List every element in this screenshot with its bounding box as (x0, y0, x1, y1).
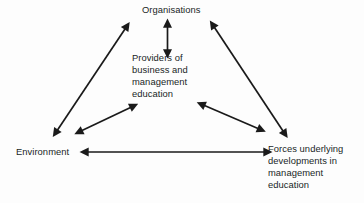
node-forces: Forces underlying developments in manage… (268, 143, 343, 191)
node-organisations: Organisations (142, 4, 201, 16)
relationship-diagram: Organisations Providers of business and … (0, 0, 364, 203)
node-environment: Environment (16, 146, 69, 158)
arrow-providers-forces (205, 106, 259, 129)
node-providers: Providers of business and management edu… (132, 52, 188, 100)
arrow-environment-providers (82, 108, 131, 131)
arrow-organisations-forces (215, 28, 284, 132)
